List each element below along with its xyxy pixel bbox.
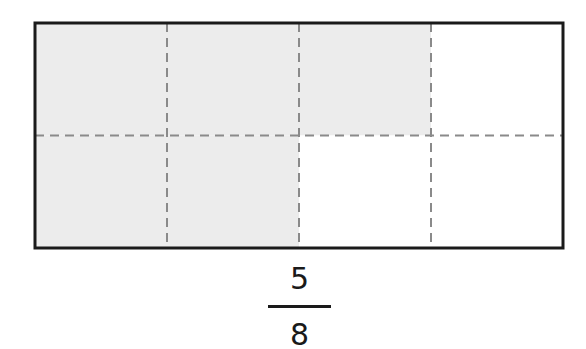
fraction-denominator: 8 bbox=[268, 318, 331, 349]
fraction-numerator: 5 bbox=[268, 262, 331, 296]
fraction-bar bbox=[268, 305, 331, 308]
unshaded-cell bbox=[431, 23, 563, 136]
unshaded-cell bbox=[431, 136, 563, 249]
unshaded-cell bbox=[299, 136, 431, 249]
shaded-cell bbox=[167, 23, 299, 136]
fraction-grid bbox=[0, 0, 586, 260]
shaded-cell bbox=[35, 23, 167, 136]
shaded-cell bbox=[35, 136, 167, 249]
shaded-cell bbox=[299, 23, 431, 136]
shaded-cell bbox=[167, 136, 299, 249]
